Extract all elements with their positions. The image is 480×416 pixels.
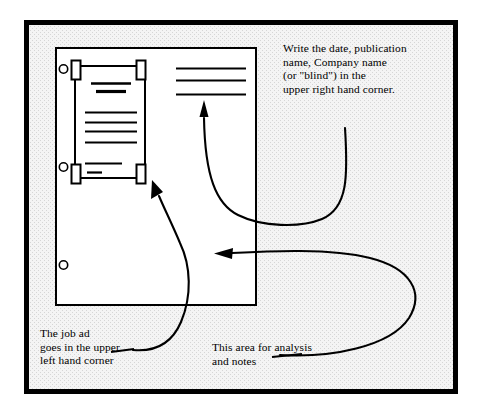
tape-mark-icon	[137, 61, 146, 80]
analysis-area-note: This area for analysis and notes	[212, 341, 312, 368]
tape-mark-icon	[72, 61, 81, 80]
tape-mark-icon	[72, 165, 81, 184]
hole-punch-icon	[59, 163, 67, 171]
figure-root: Write the date, publication name, Compan…	[0, 0, 480, 416]
tape-mark-icon	[137, 165, 146, 184]
hole-punch-icon	[59, 261, 67, 269]
hole-punch-icon	[59, 65, 67, 73]
job-ad-placement-note: The job ad goes in the upper left hand c…	[40, 327, 120, 368]
job-ad-clipping	[72, 61, 146, 184]
write-date-publication-note: Write the date, publication name, Compan…	[283, 42, 407, 96]
